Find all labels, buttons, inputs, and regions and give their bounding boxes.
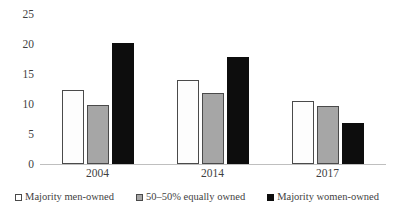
plot-area: 2004 2014 2017 (40, 0, 386, 164)
legend-label: 50–50% equally owned (146, 192, 245, 203)
y-tick-label-10: 10 (23, 99, 35, 111)
y-tick-label-20: 20 (23, 39, 35, 51)
x-tick-label-2017: 2017 (270, 168, 385, 180)
y-tick-label-25: 25 (23, 9, 35, 21)
bar-2004-50-50-equally-owned (87, 105, 109, 164)
legend-item-majority-women-owned: Majority women-owned (267, 192, 379, 203)
bar-group-2004: 2004 (40, 0, 155, 164)
bar-2004-majority-men-owned (62, 90, 84, 164)
bar-chart: 25 20 15 10 5 0 2004 2014 (0, 0, 394, 213)
y-tick-label-15: 15 (23, 69, 35, 81)
bar-2017-majority-men-owned (292, 101, 314, 164)
bar-2004-majority-women-owned (112, 43, 134, 164)
bar-group-bars (40, 0, 155, 164)
bar-2014-50-50-equally-owned (202, 93, 224, 164)
black-square-icon (267, 194, 274, 201)
bar-group-2017: 2017 (270, 0, 385, 164)
bar-2017-majority-women-owned (342, 123, 364, 164)
y-axis: 25 20 15 10 5 0 (0, 0, 40, 213)
legend-label: Majority women-owned (277, 192, 379, 203)
x-axis-line (40, 164, 386, 165)
bar-group-bars (270, 0, 385, 164)
bar-2014-majority-women-owned (227, 57, 249, 164)
legend-item-50-50-equally-owned: 50–50% equally owned (136, 192, 245, 203)
bar-group-bars (155, 0, 270, 164)
chart-legend: Majority men-owned 50–50% equally owned … (0, 192, 394, 203)
gray-square-icon (136, 194, 143, 201)
bar-2017-50-50-equally-owned (317, 106, 339, 164)
bar-2014-majority-men-owned (177, 80, 199, 164)
bar-group-2014: 2014 (155, 0, 270, 164)
x-tick-label-2004: 2004 (40, 168, 155, 180)
y-tick-label-5: 5 (28, 129, 34, 141)
white-square-icon (15, 194, 22, 201)
y-tick-label-0: 0 (28, 159, 34, 171)
x-tick-label-2014: 2014 (155, 168, 270, 180)
legend-item-majority-men-owned: Majority men-owned (15, 192, 114, 203)
legend-label: Majority men-owned (25, 192, 114, 203)
